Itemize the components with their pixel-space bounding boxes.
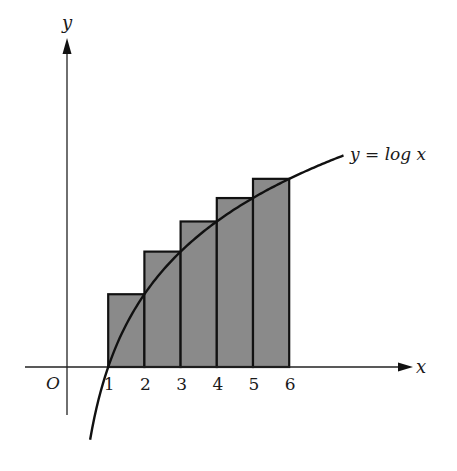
rectangle-5: [253, 179, 289, 367]
rectangle-1: [108, 294, 144, 367]
x-tick-label-3: 3: [176, 374, 187, 394]
curve-label: y = log x: [349, 144, 427, 164]
x-tick-label-5: 5: [249, 374, 260, 394]
x-tick-label-6: 6: [285, 374, 296, 394]
x-tick-label-1: 1: [104, 374, 115, 394]
y-axis-arrow-icon: [63, 38, 72, 54]
log-riemann-diagram: y x O y = log x 123456: [0, 0, 457, 471]
riemann-rectangles: [108, 179, 289, 367]
x-tick-label-4: 4: [212, 374, 223, 394]
x-axis-arrow-icon: [398, 363, 413, 372]
rectangle-2: [144, 252, 180, 367]
rectangle-4: [217, 198, 253, 367]
y-axis-label: y: [61, 12, 73, 33]
curve-label-text: y = log x: [349, 144, 427, 164]
x-tick-labels: 123456: [104, 374, 296, 394]
origin-label: O: [46, 373, 60, 393]
x-axis-label: x: [416, 356, 426, 377]
x-tick-label-2: 2: [140, 374, 151, 394]
rectangle-3: [181, 221, 217, 367]
